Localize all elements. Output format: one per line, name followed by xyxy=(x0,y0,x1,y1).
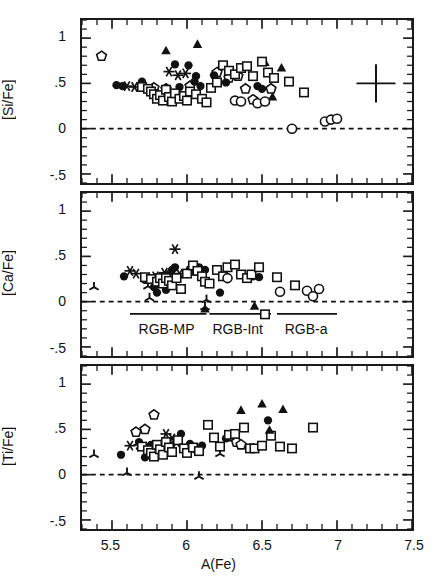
data-point-circle-open xyxy=(260,97,269,106)
data-point-square-open xyxy=(276,442,284,450)
data-point-triangle-filled xyxy=(278,404,287,413)
data-point-pentagon-open xyxy=(97,51,107,60)
y-tick-label: 0 xyxy=(0,294,72,308)
data-point-square-open xyxy=(168,448,176,456)
y-tick-label: .5 xyxy=(0,421,72,435)
x-axis-label: A(Fe) xyxy=(0,556,437,572)
y-tick-label: 0 xyxy=(0,121,72,135)
data-point-square-open xyxy=(273,273,281,281)
data-point-triangle-filled xyxy=(277,63,286,72)
data-point-square-open xyxy=(285,77,293,85)
data-point-square-open xyxy=(195,447,203,455)
data-point-triangle-filled xyxy=(265,425,274,434)
data-point-square-open xyxy=(309,423,317,431)
data-point-square-open xyxy=(291,281,299,289)
group-label-rgb-a: RGB-a xyxy=(285,321,328,337)
series-filled-triangle xyxy=(200,301,259,312)
data-point-circle-filled xyxy=(196,82,204,90)
panel-ti-fe xyxy=(80,364,414,531)
data-point-circle-open xyxy=(275,287,284,296)
y-axis-label-si-fe: [Si/Fe] xyxy=(0,40,24,160)
data-point-square-open xyxy=(258,57,266,65)
data-point-asterisk xyxy=(169,244,180,253)
data-point-circle-filled xyxy=(216,289,224,297)
data-point-circle-filled xyxy=(117,451,125,459)
data-point-square-open xyxy=(255,263,263,271)
data-point-circle-open xyxy=(332,114,341,123)
error-bar-cross xyxy=(357,64,396,102)
data-point-square-open xyxy=(300,88,308,96)
data-point-triangle-filled xyxy=(257,399,266,408)
data-point-triangle-filled xyxy=(193,39,202,48)
y-tick-label: 1 xyxy=(0,29,72,43)
x-tick-label: 7 xyxy=(315,537,361,553)
y-axis-label-ti-fe: [Ti/Fe] xyxy=(0,386,24,506)
data-point-square-open xyxy=(205,279,213,287)
data-point-circle-filled xyxy=(171,263,179,271)
data-point-square-open xyxy=(243,62,251,70)
x-tick-label: 7.5 xyxy=(391,537,437,553)
data-point-square-open xyxy=(216,442,224,450)
data-point-circle-filled xyxy=(258,85,266,93)
data-point-circle-open xyxy=(287,124,296,133)
series-tri-spoke xyxy=(89,281,211,310)
data-point-square-open xyxy=(183,96,191,104)
y-tick-label: -.5 xyxy=(0,514,72,528)
panel-si-fe xyxy=(80,18,414,185)
data-point-square-open xyxy=(183,269,191,277)
y-tick-label: -.5 xyxy=(0,341,72,355)
data-point-pentagon-open xyxy=(140,424,150,433)
data-point-tri-spoke xyxy=(145,293,154,301)
data-point-square-open xyxy=(270,74,278,82)
data-point-square-open xyxy=(202,98,210,106)
data-point-tri-spoke xyxy=(89,449,98,457)
y-tick-label: .5 xyxy=(0,248,72,262)
data-point-pentagon-open xyxy=(131,427,141,436)
y-axis-label-ca-fe: [Ca/Fe] xyxy=(0,213,24,333)
data-point-tri-spoke xyxy=(89,282,98,290)
data-point-asterisk xyxy=(124,441,135,450)
data-point-square-open xyxy=(210,433,218,441)
data-point-square-open xyxy=(240,423,248,431)
data-point-circle-filled xyxy=(184,61,192,69)
data-point-square-open xyxy=(204,421,212,429)
x-tick-label: 5.5 xyxy=(87,537,133,553)
data-point-circle-filled xyxy=(264,416,272,424)
data-point-square-open xyxy=(172,274,180,282)
data-point-triangle-filled xyxy=(236,405,245,414)
data-point-pentagon-open xyxy=(149,410,159,419)
data-point-pentagon-open xyxy=(266,84,276,93)
data-point-circle-open xyxy=(314,284,323,293)
y-tick-label: -.5 xyxy=(0,168,72,182)
data-point-circle-open xyxy=(236,97,245,106)
data-point-circle-filled xyxy=(222,78,230,86)
data-point-square-open xyxy=(249,72,257,80)
figure-abundance-vs-afe: [Si/Fe] [Ca/Fe] [Ti/Fe] -.50.51-.50.51-.… xyxy=(0,0,437,578)
data-point-square-open xyxy=(177,285,185,293)
data-point-asterisk xyxy=(180,69,191,78)
data-point-circle-open xyxy=(223,274,232,283)
axis-ticks xyxy=(82,20,412,183)
y-tick-label: 1 xyxy=(0,202,72,216)
data-point-circle-filled xyxy=(192,72,200,80)
data-point-square-open xyxy=(231,430,239,438)
data-point-circle-filled xyxy=(120,272,128,280)
series-open-circle xyxy=(230,96,341,133)
data-point-square-open xyxy=(261,310,269,318)
data-point-square-open xyxy=(174,436,182,444)
data-point-triangle-filled xyxy=(161,46,170,55)
x-tick-label: 6 xyxy=(163,537,209,553)
x-tick-label: 6.5 xyxy=(239,537,285,553)
group-label-rgb-int: RGB-Int xyxy=(212,321,263,337)
y-tick-label: 1 xyxy=(0,375,72,389)
group-label-rgb-mp: RGB-MP xyxy=(139,321,195,337)
data-point-square-open xyxy=(213,78,221,86)
y-tick-label: 0 xyxy=(0,467,72,481)
data-point-square-open xyxy=(231,260,239,268)
data-point-circle-filled xyxy=(153,289,161,297)
data-point-square-open xyxy=(258,441,266,449)
data-point-square-open xyxy=(288,444,296,452)
data-point-pentagon-open xyxy=(241,84,251,93)
y-tick-label: .5 xyxy=(0,75,72,89)
